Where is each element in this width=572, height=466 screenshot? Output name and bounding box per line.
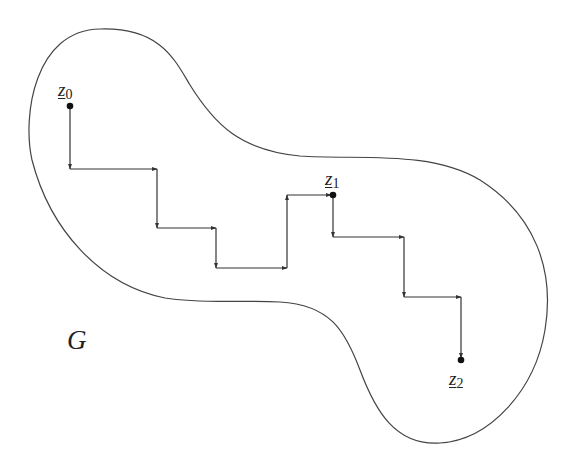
domain-diagram — [0, 0, 572, 466]
point-label-z0: z0 — [58, 80, 72, 102]
point-z1-dot — [330, 192, 337, 199]
staircase-path — [70, 106, 461, 358]
point-label-z1: z1 — [325, 169, 339, 191]
point-z2-dot — [458, 357, 465, 364]
region-boundary — [29, 29, 547, 443]
point-label-z2: z2 — [449, 369, 463, 391]
region-label-g: G — [67, 327, 87, 354]
point-z0-dot — [67, 103, 74, 110]
